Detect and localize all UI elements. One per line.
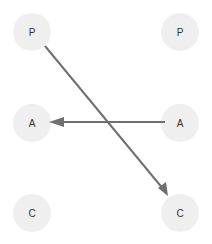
node-left-a[interactable]: A [13,104,51,142]
diagram-canvas: P A C P A C [0,0,212,244]
node-right-p[interactable]: P [161,13,199,51]
node-left-p[interactable]: P [13,13,51,51]
node-label: A [177,118,184,129]
node-label: P [177,27,184,38]
right-column: P A C [161,13,199,232]
node-label: A [29,118,36,129]
node-right-a[interactable]: A [161,104,199,142]
arrowhead-icon [49,117,64,127]
node-label: C [28,208,35,219]
node-right-c[interactable]: C [161,194,199,232]
node-label: C [176,208,183,219]
edge-right-a-to-left-a[interactable] [49,117,165,127]
node-label: P [29,27,36,38]
edges [45,46,168,196]
node-left-c[interactable]: C [13,194,51,232]
